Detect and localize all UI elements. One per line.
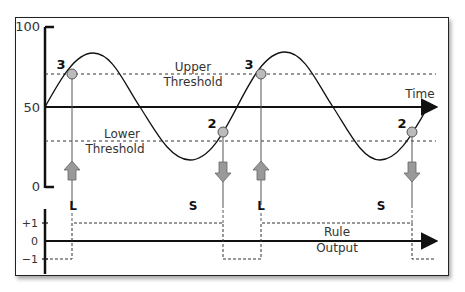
point-marker-4 — [407, 127, 417, 137]
down-arrow-icon — [215, 162, 231, 182]
point-marker-2 — [218, 127, 228, 137]
signal-label-4: S — [377, 199, 386, 213]
down-arrow-icon — [404, 162, 420, 182]
output-label-minus1: −1 — [22, 253, 38, 266]
lower-threshold-label-1: Lower — [104, 127, 140, 141]
y-label-0: 0 — [32, 179, 40, 194]
point-label-2: 2 — [207, 116, 216, 131]
point-label-3: 3 — [244, 57, 253, 72]
signal-label-3: L — [257, 199, 265, 213]
upper-threshold-label-2: Threshold — [162, 75, 222, 89]
output-label-0: 0 — [31, 235, 38, 248]
up-arrow-icon — [64, 161, 80, 180]
upper-threshold-label-1: Upper — [175, 60, 211, 74]
rule-output-label-2: Output — [316, 241, 358, 255]
y-label-100: 100 — [15, 19, 40, 34]
point-marker-1 — [67, 69, 77, 79]
threshold-rule-diagram: 100 50 0 Time Upper Threshold Lower Thre… — [0, 0, 465, 292]
up-arrow-icon — [253, 161, 269, 180]
point-label-1: 3 — [56, 57, 65, 72]
signal-label-1: L — [69, 199, 77, 213]
time-axis-label: Time — [404, 87, 434, 101]
output-label-plus1: +1 — [22, 217, 38, 230]
lower-threshold-label-2: Threshold — [84, 142, 144, 156]
rule-output-label-1: Rule — [324, 225, 350, 239]
point-marker-3 — [256, 69, 266, 79]
signal-label-2: S — [189, 199, 198, 213]
y-label-50: 50 — [23, 100, 40, 115]
point-label-4: 2 — [397, 116, 406, 131]
